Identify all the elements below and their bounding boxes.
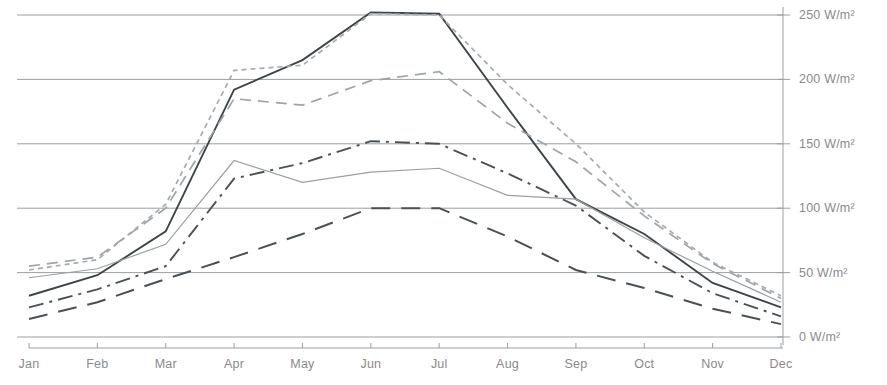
x-tick-label-mar: Mar bbox=[155, 358, 177, 371]
series-line-4 bbox=[29, 161, 781, 303]
x-tick-label-feb: Feb bbox=[86, 358, 108, 371]
y-tick-label-50: 50 W/m² bbox=[799, 267, 848, 280]
y-tick-label-250: 250 W/m² bbox=[799, 9, 855, 22]
series-line-2 bbox=[29, 14, 781, 296]
x-tick-label-jan: Jan bbox=[19, 358, 40, 371]
data-series-group bbox=[29, 12, 781, 324]
x-tick-label-aug: Aug bbox=[496, 358, 519, 371]
line-chart-plot bbox=[0, 0, 887, 385]
x-tick-label-sep: Sep bbox=[564, 358, 587, 371]
chart-container: 0 W/m²50 W/m²100 W/m²150 W/m²200 W/m²250… bbox=[0, 0, 887, 385]
series-line-1 bbox=[29, 12, 781, 307]
x-tick-label-dec: Dec bbox=[770, 358, 793, 371]
x-tick-label-apr: Apr bbox=[224, 358, 244, 371]
x-tick-label-jul: Jul bbox=[431, 358, 448, 371]
x-tick-label-nov: Nov bbox=[701, 358, 724, 371]
x-tick-label-jun: Jun bbox=[360, 358, 381, 371]
y-tick-label-150: 150 W/m² bbox=[799, 138, 855, 151]
y-tick-label-0: 0 W/m² bbox=[799, 331, 840, 344]
x-axis-line bbox=[29, 343, 783, 348]
gridlines bbox=[17, 15, 783, 337]
y-tick-label-200: 200 W/m² bbox=[799, 73, 855, 86]
x-tick-label-oct: Oct bbox=[634, 358, 654, 371]
series-line-3 bbox=[29, 72, 781, 299]
series-line-6 bbox=[29, 208, 781, 324]
y-tick-label-100: 100 W/m² bbox=[799, 202, 855, 215]
x-tick-label-may: May bbox=[290, 358, 314, 371]
series-line-5 bbox=[29, 141, 781, 316]
